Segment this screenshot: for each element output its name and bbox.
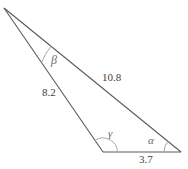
angle-arc-alpha — [164, 141, 168, 152]
angle-label-gamma: γ — [108, 128, 112, 139]
triangle-edge-10-8 — [4, 8, 181, 152]
side-length-label-3-7: 3.7 — [139, 154, 153, 165]
side-length-label-8-2: 8.2 — [42, 87, 56, 98]
side-length-label-10-8: 10.8 — [102, 72, 121, 83]
angle-label-alpha: α — [148, 135, 154, 146]
triangle-edge-8-2 — [4, 8, 103, 152]
angle-label-beta: β — [51, 54, 57, 66]
triangle-figure: 8.2 10.8 3.7 β γ α — [0, 0, 188, 169]
triangle-drawing — [0, 0, 188, 169]
angle-arc-beta — [42, 46, 52, 63]
